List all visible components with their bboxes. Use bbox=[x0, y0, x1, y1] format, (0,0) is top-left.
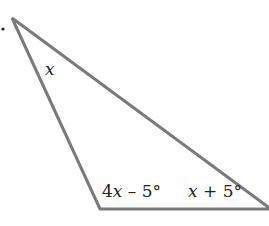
angle-label-bottom-right: x + 5° bbox=[188, 181, 242, 201]
triangle-diagram: x 4x – 5° x + 5° bbox=[0, 0, 269, 226]
angle-label-bottom-left: 4x – 5° bbox=[102, 181, 161, 201]
angle-label-top: x bbox=[45, 59, 55, 79]
bullet-dot bbox=[1, 27, 4, 30]
